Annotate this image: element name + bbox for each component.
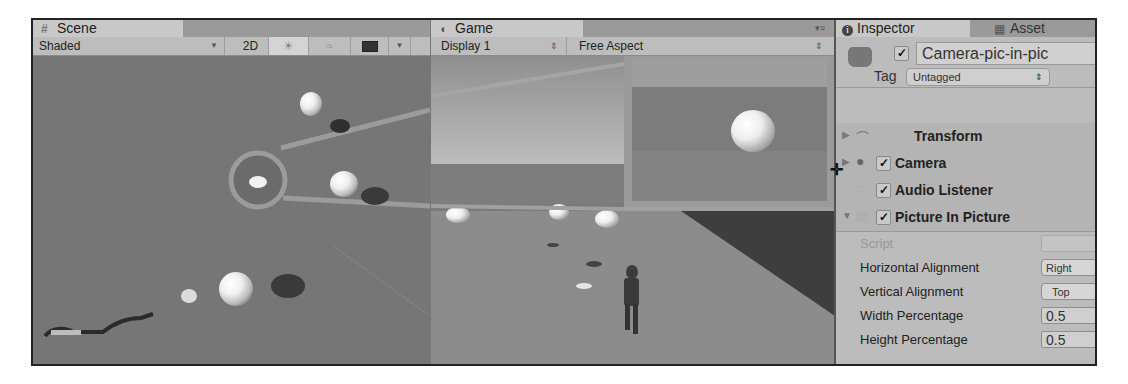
pip-sphere [731,110,775,152]
display-dropdown[interactable]: Display 1 ⇕ [435,37,567,55]
property-height-percentage: Height Percentage 0.5 [836,328,1097,352]
aspect-value: Free Aspect [579,39,643,53]
updown-arrows-icon: ⇕ [815,37,823,55]
property-label: Width Percentage [860,308,963,323]
shading-mode-dropdown[interactable]: Shaded ▼ [33,37,225,55]
chevron-down-icon: ▼ [396,41,404,50]
tag-value: Untagged [913,71,961,83]
game-panel: ◖Game ▾≡ Display 1 ⇕ Free Aspect ⇕ [430,20,835,364]
effects-dropdown[interactable]: ▼ [389,37,411,55]
sphere [300,92,322,116]
tab-scene[interactable]: #Scene [33,20,183,37]
display-value: Display 1 [441,39,490,53]
inspector-tab-bar: iInspector ▦Asset [836,20,1097,37]
property-value: Top [1052,286,1070,298]
component-enabled-checkbox[interactable]: ✓ [876,183,891,198]
audio-icon: ≈ [326,39,333,53]
effects-icon [362,41,378,52]
unity-editor-window: #Scene Shaded ▼ 2D ☀ ≈ ▼ [31,18,1097,366]
component-enabled-checkbox[interactable]: ✓ [876,210,891,225]
foldout-arrow-icon[interactable]: ▶ [842,129,850,140]
component-audio-listener[interactable]: ◌ ✓ Audio Listener [836,177,1097,205]
horizontal-alignment-dropdown[interactable]: Right [1041,259,1097,276]
tab-game-label: Game [455,20,493,36]
main-sky-left [431,56,624,166]
game-tab-bar: ◖Game ▾≡ [431,20,835,37]
game-viewport[interactable] [431,56,835,364]
property-value: 0.5 [1046,308,1065,324]
transform-icon: ⌒ [856,127,869,146]
camera-icon: ● [856,153,864,169]
scene-tab-bar: #Scene [33,20,430,37]
property-label: Height Percentage [860,332,968,347]
camera-gizmo-icon[interactable] [249,176,267,188]
object-name-field[interactable]: Camera-pic-in-pic [916,42,1097,65]
updown-arrows-icon: ⇕ [1035,69,1043,85]
lighting-toggle[interactable]: ☀ [269,37,309,55]
sphere [595,210,619,228]
main-horizon-left [431,164,624,204]
tab-asset-label: Asset [1010,20,1045,36]
resize-cursor-icon: ✛ [830,160,843,179]
component-transform[interactable]: ▶ ⌒ Transform [836,123,1097,151]
property-value: 0.5 [1046,332,1065,348]
effects-toggle[interactable] [351,37,389,55]
audio-toggle[interactable]: ≈ [309,37,351,55]
property-script: Script [836,232,1097,256]
tab-asset[interactable]: ▦Asset [994,20,1097,37]
audio-listener-icon: ◌ [856,181,864,196]
tag-dropdown[interactable]: Untagged ⇕ [906,68,1050,86]
scene-panel: #Scene Shaded ▼ 2D ☀ ≈ ▼ [33,20,430,364]
script-field [1041,235,1097,252]
foldout-arrow-icon[interactable]: ▶ [842,156,850,167]
sphere [446,207,470,223]
updown-arrows-icon: ⇕ [550,37,558,55]
object-active-checkbox[interactable]: ✓ [894,46,909,61]
tab-inspector[interactable]: iInspector [836,20,970,37]
info-icon: i [842,25,853,36]
property-label: Horizontal Alignment [860,260,979,275]
scene-viewport[interactable] [33,56,430,364]
sphere-shadow [271,274,305,298]
sphere-shadow [361,187,389,205]
property-vertical-alignment: Vertical Alignment Top [836,280,1097,304]
lighting-icon: ☀ [283,39,294,53]
component-name: Picture In Picture [895,209,1010,225]
sphere [219,272,253,306]
gameobject-icon [848,47,872,67]
tab-game[interactable]: ◖Game [431,20,583,37]
script-icon: ▤ [856,208,868,223]
tag-label: Tag [874,68,897,84]
game-toolbar: Display 1 ⇕ Free Aspect ⇕ [431,37,835,56]
property-horizontal-alignment: Horizontal Alignment Right [836,256,1097,280]
panel-menu-icon[interactable]: ▾≡ [815,23,829,33]
component-camera[interactable]: ▶ ● ✓ Camera [836,150,1097,178]
sphere [330,171,358,197]
sphere-shadow [586,261,602,267]
foldout-arrow-expanded-icon[interactable]: ▼ [842,210,852,221]
component-name: Audio Listener [895,182,993,198]
object-header: ✓ Camera-pic-in-pic Tag Untagged ⇕ [836,37,1097,88]
shading-mode-value: Shaded [39,39,80,53]
height-percentage-field[interactable]: 0.5 [1041,331,1097,348]
aspect-dropdown[interactable]: Free Aspect ⇕ [571,37,831,55]
character-model-highlight [51,330,81,335]
grid-icon: # [41,21,53,38]
property-width-percentage: Width Percentage 0.5 [836,304,1097,328]
component-name: Transform [914,128,982,144]
property-label: Vertical Alignment [860,284,963,299]
sphere-shadow [547,243,559,247]
sphere [576,283,592,289]
property-label: Script [860,236,893,251]
vertical-alignment-dropdown[interactable]: Top [1041,283,1097,300]
mode-2d-label: 2D [243,39,258,53]
tab-scene-label: Scene [57,20,97,36]
property-value: Right [1046,262,1072,274]
mode-2d-toggle[interactable]: 2D [233,37,269,55]
component-name: Camera [895,155,946,171]
ground-plane [33,56,430,364]
sphere [181,289,197,303]
width-percentage-field[interactable]: 0.5 [1041,307,1097,324]
component-enabled-checkbox[interactable]: ✓ [876,156,891,171]
component-picture-in-picture[interactable]: ▼ ▤ ✓ Picture In Picture [836,204,1097,232]
